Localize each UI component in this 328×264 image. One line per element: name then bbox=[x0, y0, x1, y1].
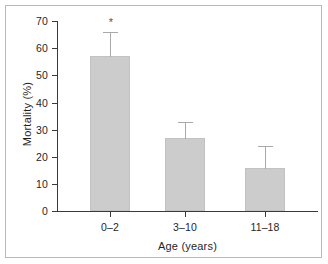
x-tick-label-age-11-18: 11–18 bbox=[225, 221, 305, 233]
x-axis-line bbox=[57, 211, 318, 212]
y-tick-label-0: 0 bbox=[8, 206, 48, 216]
bar-age-0-2 bbox=[90, 56, 130, 211]
y-axis-title: Mortality (%) bbox=[21, 44, 33, 184]
figure: 0 10 20 30 40 50 60 70 * 0–2 3–10 11–18 … bbox=[0, 0, 328, 264]
error-bar-cap-age-11-18 bbox=[258, 146, 273, 147]
x-tick-label-age-3-10: 3–10 bbox=[145, 221, 225, 233]
y-axis-line bbox=[57, 21, 58, 212]
error-bar-line-age-0-2 bbox=[110, 32, 111, 57]
x-axis-title: Age (years) bbox=[57, 240, 318, 252]
error-bar-line-age-11-18 bbox=[265, 146, 266, 169]
y-tick-20 bbox=[52, 157, 57, 158]
y-tick-50 bbox=[52, 75, 57, 76]
y-tick-70 bbox=[52, 21, 57, 22]
bar-age-11-18 bbox=[245, 168, 285, 211]
y-tick-label-70: 70 bbox=[8, 16, 48, 26]
error-bar-cap-age-3-10 bbox=[178, 122, 193, 123]
error-bar-line-age-3-10 bbox=[185, 122, 186, 139]
y-tick-40 bbox=[52, 103, 57, 104]
bar-age-3-10 bbox=[165, 138, 205, 211]
y-tick-0 bbox=[52, 211, 57, 212]
significance-asterisk-age-0-2: * bbox=[101, 17, 121, 28]
error-bar-cap-age-0-2 bbox=[103, 32, 118, 33]
x-tick-label-age-0-2: 0–2 bbox=[70, 221, 150, 233]
x-tick-age-3-10 bbox=[185, 212, 186, 217]
x-tick-age-0-2 bbox=[110, 212, 111, 217]
x-tick-age-11-18 bbox=[265, 212, 266, 217]
y-tick-10 bbox=[52, 184, 57, 185]
y-tick-30 bbox=[52, 130, 57, 131]
y-tick-60 bbox=[52, 48, 57, 49]
